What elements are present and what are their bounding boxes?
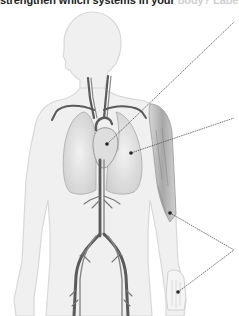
hand xyxy=(166,270,186,310)
hand-dot xyxy=(176,290,180,294)
hand-pointer-line xyxy=(178,250,234,292)
body-diagram xyxy=(0,0,239,316)
muscle-dot xyxy=(168,211,172,215)
head xyxy=(63,12,121,90)
lung-dot xyxy=(129,151,133,155)
muscle-pointer-line xyxy=(170,213,234,250)
heart-dot xyxy=(105,142,109,146)
